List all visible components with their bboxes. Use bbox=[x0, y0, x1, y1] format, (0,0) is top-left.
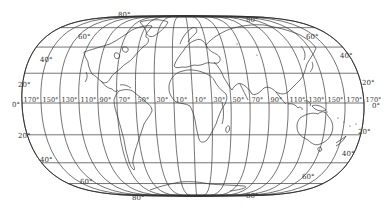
meridian-line bbox=[185, 16, 288, 196]
meridian-line bbox=[136, 16, 198, 196]
antarctica-coast bbox=[150, 182, 246, 191]
asia-coast bbox=[206, 25, 316, 95]
lat-label-20s-left: 20° bbox=[18, 132, 30, 140]
longitude-label: 70° bbox=[252, 96, 264, 104]
lat-label-eq-left: 0° bbox=[12, 101, 20, 109]
lat-label-20n-right: 20° bbox=[362, 79, 374, 87]
longitude-label: 150° bbox=[43, 96, 59, 104]
longitude-label: 170° bbox=[24, 96, 40, 104]
longitude-label: 170° bbox=[347, 96, 363, 104]
lat-label-20n-left: 20° bbox=[18, 81, 30, 89]
australia-coast bbox=[297, 112, 333, 145]
longitude-label: 30° bbox=[214, 96, 226, 104]
meridian-line bbox=[185, 16, 269, 196]
longitude-label: 150° bbox=[328, 96, 344, 104]
longitude-label: 170° bbox=[366, 96, 382, 104]
longitude-label: 130° bbox=[309, 96, 325, 104]
europe-coast bbox=[174, 39, 220, 67]
longitude-label: 90° bbox=[100, 96, 112, 104]
lat-label-80s-left: 80° bbox=[132, 194, 144, 202]
longitude-label: 50° bbox=[233, 96, 245, 104]
meridian-line bbox=[22, 16, 197, 196]
longitude-label: 90° bbox=[271, 96, 283, 104]
lat-label-60n-left: 60° bbox=[78, 33, 90, 41]
africa-coast bbox=[169, 70, 227, 142]
meridian-line bbox=[185, 16, 345, 196]
lat-label-60n-right: 60° bbox=[306, 33, 318, 41]
longitude-labels: 170°150°130°110°90°70°50°30°10°10°30°50°… bbox=[24, 96, 382, 104]
lat-label-40s-right: 40° bbox=[342, 150, 354, 158]
lat-label-40s-left: 40° bbox=[40, 156, 52, 164]
longitude-label: 10° bbox=[176, 96, 188, 104]
world-map: 80° 60° 40° 20° 0° 20° 40° 60° 80° 80° 6… bbox=[0, 0, 387, 210]
meridian-line bbox=[185, 16, 307, 196]
lat-label-60s-left: 60° bbox=[80, 178, 92, 186]
meridian-line bbox=[41, 16, 197, 196]
lat-label-80s-right: 80° bbox=[246, 192, 258, 200]
lat-label-20s-right: 20° bbox=[358, 128, 370, 136]
longitude-label: 110° bbox=[81, 96, 97, 104]
longitude-label: 30° bbox=[157, 96, 169, 104]
lat-label-40n-right: 40° bbox=[340, 52, 352, 60]
lat-label-60s-right: 60° bbox=[302, 173, 314, 181]
meridian-line bbox=[79, 16, 197, 196]
longitude-label: 110° bbox=[290, 96, 306, 104]
longitude-label: 10° bbox=[195, 96, 207, 104]
lat-label-80n-right: 80° bbox=[246, 16, 258, 24]
meridian-line bbox=[117, 16, 197, 196]
meridian-line bbox=[60, 16, 197, 196]
longitude-label: 130° bbox=[62, 96, 78, 104]
lat-label-40n-left: 40° bbox=[40, 56, 52, 64]
longitude-label: 50° bbox=[138, 96, 150, 104]
lat-label-80n-left: 80° bbox=[118, 11, 130, 19]
coastlines bbox=[84, 20, 357, 191]
meridian-line bbox=[185, 16, 197, 196]
longitude-label: 70° bbox=[119, 96, 131, 104]
